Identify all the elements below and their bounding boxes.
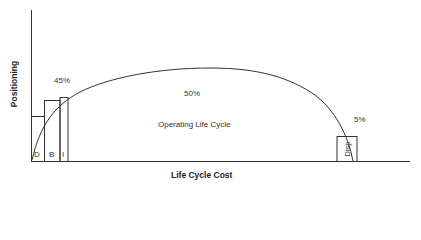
operating-percentage: 50% [184, 90, 200, 98]
install-phase-label: I [62, 151, 64, 159]
early-phase-percentage: 45% [54, 77, 70, 85]
x-axis-label: Life Cycle Cost [171, 171, 232, 180]
design-phase-label: D [34, 151, 40, 159]
operating-life-cycle-label: Operating Life Cycle [158, 121, 230, 129]
disposal-percentage: 5% [354, 116, 366, 124]
y-axis-label: Positioning [9, 61, 19, 107]
life-cycle-curve [32, 68, 353, 161]
disposal-phase-label: Disp [343, 141, 352, 156]
build-phase-label: B [49, 151, 54, 159]
